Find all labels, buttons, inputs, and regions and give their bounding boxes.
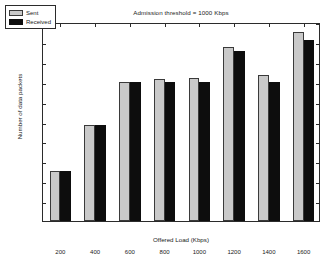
bar-received xyxy=(165,82,176,221)
x-axis-tick-mark xyxy=(95,24,96,27)
bar-received xyxy=(304,40,315,221)
bar-received xyxy=(130,82,141,221)
x-axis-tick-mark xyxy=(60,24,61,27)
legend-item-sent: Sent xyxy=(9,8,51,17)
x-axis-tick-mark xyxy=(130,24,131,27)
x-axis-title: Offered Load (Kbps) xyxy=(42,236,320,243)
x-axis-tick-mark xyxy=(165,24,166,27)
legend-swatch-sent-icon xyxy=(9,10,23,16)
bar-sent xyxy=(258,75,269,221)
y-axis-tick-mark xyxy=(43,203,46,204)
bar-received xyxy=(234,51,245,221)
legend-swatch-received-icon xyxy=(9,19,23,25)
bar-received xyxy=(199,82,210,221)
y-axis-tick-mark xyxy=(316,24,319,25)
y-axis-tick-mark xyxy=(316,183,319,184)
y-axis-tick-mark xyxy=(43,143,46,144)
chart-legend: Sent Received xyxy=(5,5,56,29)
y-axis-tick-mark xyxy=(316,84,319,85)
y-axis-tick-mark xyxy=(43,163,46,164)
x-axis-tick-mark xyxy=(199,24,200,27)
bar-sent xyxy=(223,47,234,221)
x-axis-tick-label: 1600 xyxy=(284,249,324,255)
bar-sent xyxy=(154,79,165,221)
y-axis-tick-mark xyxy=(43,124,46,125)
x-axis-tick-mark xyxy=(304,24,305,27)
y-axis-tick-mark xyxy=(316,163,319,164)
y-axis-tick-mark xyxy=(316,203,319,204)
legend-item-received: Received xyxy=(9,17,51,26)
plot-area: 0.20.40.60.811.21.41.61.8220040060080010… xyxy=(42,23,320,222)
bar-sent xyxy=(293,32,304,221)
y-axis-title: Number of data packets xyxy=(16,62,23,152)
bar-sent xyxy=(50,171,61,221)
y-axis-tick-mark xyxy=(316,143,319,144)
bar-sent xyxy=(119,82,130,221)
y-axis-tick-mark xyxy=(43,44,46,45)
x-axis-tick-mark xyxy=(234,24,235,27)
y-axis-tick-mark xyxy=(316,124,319,125)
y-axis-tick-mark xyxy=(43,104,46,105)
bar-received xyxy=(269,82,280,221)
bar-sent xyxy=(84,125,95,221)
y-axis-tick-mark xyxy=(316,104,319,105)
bar-received xyxy=(60,171,71,221)
legend-label-sent: Sent xyxy=(26,10,38,16)
chart-title: Admission threshold = 1000 Kbps xyxy=(42,9,320,16)
y-axis-tick-mark xyxy=(316,64,319,65)
y-axis-tick-mark xyxy=(43,183,46,184)
bar-received xyxy=(95,125,106,221)
y-axis-tick-mark xyxy=(43,64,46,65)
bar-sent xyxy=(189,78,200,221)
chart-figure: Admission threshold = 1000 Kbps x 104 0.… xyxy=(0,0,331,259)
legend-label-received: Received xyxy=(26,19,51,25)
y-axis-tick-mark xyxy=(43,84,46,85)
x-axis-tick-mark xyxy=(269,24,270,27)
y-axis-tick-mark xyxy=(316,44,319,45)
